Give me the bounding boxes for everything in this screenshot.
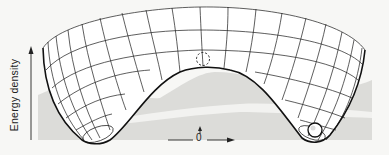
mexican-hat-diagram: [0, 0, 389, 155]
y-axis-label: Energy density: [8, 59, 20, 131]
y-axis-arrow: [29, 46, 34, 140]
shadow-highlight-lower: [60, 142, 372, 147]
origin-label: 0: [196, 132, 202, 143]
ball-icon: [308, 123, 322, 137]
